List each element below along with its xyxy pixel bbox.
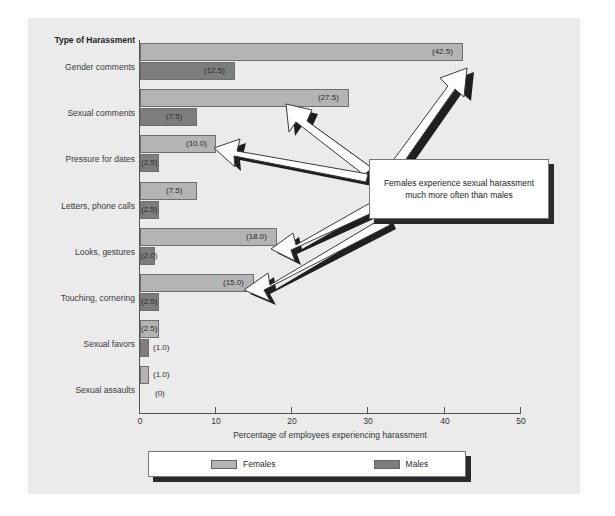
callout-arrows xyxy=(0,0,615,516)
callout-box: Females experience sexual harassment muc… xyxy=(369,159,549,219)
legend-entry-males: Males xyxy=(374,459,429,469)
legend-swatch-females-icon xyxy=(211,460,237,469)
legend-label-females: Females xyxy=(243,459,276,469)
callout-text-line1: Females experience sexual harassment xyxy=(384,178,534,188)
legend-swatch-males-icon xyxy=(374,460,400,469)
arrow-to-touching-cornering xyxy=(244,216,396,305)
chart-page: Type of Harassment Gender comments Sexua… xyxy=(0,0,615,516)
legend-label-males: Males xyxy=(406,459,429,469)
legend-entry-females: Females xyxy=(211,459,276,469)
callout-text: Females experience sexual harassment muc… xyxy=(376,177,542,201)
chart-legend: Females Males xyxy=(148,451,466,477)
callout-text-line2: much more often than males xyxy=(405,190,513,200)
